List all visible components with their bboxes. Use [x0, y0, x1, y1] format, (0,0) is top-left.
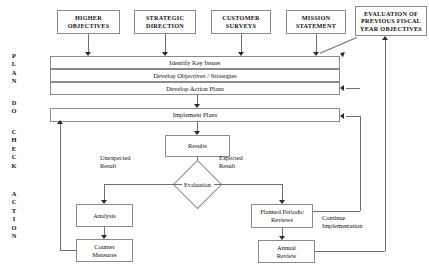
input-box-evaluation-previous-fiscal-year: EVALUATION OFPREVIOUS FISCALYEAR OBJECTI… [355, 6, 427, 36]
phase-label-action: ACTION [8, 190, 20, 240]
phase-label-do: DO [8, 99, 20, 116]
connector-customer-surveys [241, 34, 242, 54]
connector-annual-review-out [315, 251, 385, 252]
input-box-higher-objectives: HIGHEROBJECTIVES [57, 10, 120, 34]
process-band-implement-plans: Implement Plans [50, 108, 340, 122]
connector-continue-implementation-riser [360, 116, 361, 211]
pdca-flowchart: PLAN DO CHECK ACTION HIGHEROBJECTIVES ST… [0, 0, 429, 276]
connector-mission-statement [316, 34, 317, 54]
connector-higher-objectives [88, 34, 89, 54]
connector-feedback-to-develop-action-plans [346, 88, 360, 89]
arrowhead-evaluation-previous-to-identify [339, 51, 345, 58]
process-band-develop-action-plans: Develop Action Plans [50, 82, 340, 95]
process-box-analysis: Analysis [76, 204, 133, 227]
connector-continue-implementation-out [313, 211, 360, 212]
arrowhead-counter-measures-to-implement [57, 120, 63, 124]
phase-label-plan: PLAN [8, 52, 20, 86]
process-box-planned-periodic-reviews: Planned PeriodicReviews [251, 204, 313, 228]
connector-strategic-direction [165, 34, 166, 54]
process-band-develop-objectives-strategies: Develop Objectives / Strategies [50, 69, 340, 82]
process-box-annual-review: AnnualReview [258, 240, 315, 263]
phase-label-check: CHECK [8, 128, 20, 170]
process-band-identify-key-issues: Identify Key Issues [50, 56, 340, 69]
connector-continue-implementation-in [346, 116, 360, 117]
feedback-label-continue-implementation: ContinueImplementation [322, 214, 362, 230]
branch-label-expected-result: ExpectedResult [219, 154, 243, 170]
connector-evaluation-previous-to-identify [320, 37, 357, 54]
arrowhead-feedback-to-develop-action-plans [340, 85, 344, 91]
arrowhead-continue-implementation [340, 113, 344, 119]
connector-counter-measures-out [60, 250, 76, 251]
decision-label-evaluation: Evaluation [171, 181, 224, 188]
connector-counter-measures-riser [60, 124, 61, 250]
input-box-mission-statement: MISSIONSTATEMENT [286, 10, 346, 34]
connector-evaluation-right-bus [214, 184, 282, 185]
connector-annual-review-riser [385, 40, 386, 251]
arrowhead-annual-review-to-evaluation-previous [382, 36, 388, 40]
input-box-strategic-direction: STRATEGICDIRECTION [134, 10, 196, 34]
process-box-counter-measures: CounterMeasures [76, 239, 133, 262]
branch-label-unexpected-result: UnexpectedResult [100, 154, 131, 170]
input-box-customer-surveys: CUSTOMERSURVEYS [211, 10, 271, 34]
